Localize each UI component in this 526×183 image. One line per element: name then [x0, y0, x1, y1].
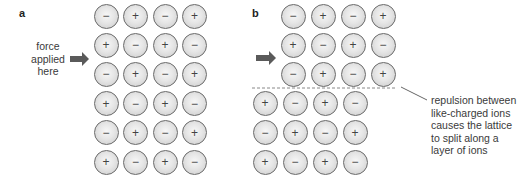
force-arrow-b-icon — [256, 51, 276, 65]
force-arrow-a-icon — [70, 52, 89, 66]
leader-line — [401, 87, 427, 100]
diagram-overlay — [0, 0, 526, 183]
